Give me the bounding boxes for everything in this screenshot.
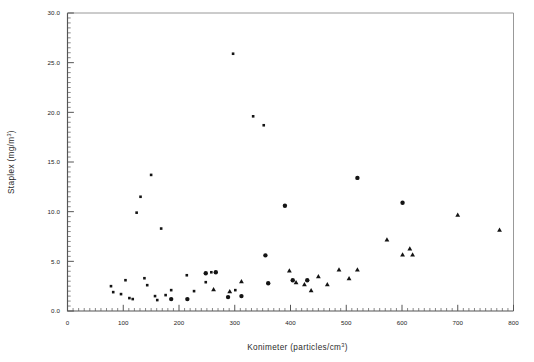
data-point-triangle	[302, 282, 307, 286]
data-point-square	[110, 285, 113, 288]
x-tick-label: 800	[508, 319, 519, 326]
y-axis-title-group: Staplex (mg/m3)	[6, 130, 16, 194]
data-point-circle	[266, 281, 270, 285]
x-axis-title: Konimeter (particles/cm3)	[247, 342, 348, 352]
data-point-circle	[291, 278, 295, 282]
data-point-circle	[263, 253, 267, 257]
data-point-square	[252, 115, 255, 118]
data-point-square	[120, 293, 123, 296]
data-point-square	[150, 174, 153, 177]
data-point-square	[156, 299, 159, 302]
data-point-triangle	[316, 274, 321, 278]
data-point-circle	[204, 271, 208, 275]
data-point-square	[262, 124, 265, 127]
data-point-circle	[169, 297, 173, 301]
x-tick-label: 700	[452, 319, 463, 326]
x-tick-label: 600	[397, 319, 408, 326]
data-point-circle	[214, 270, 218, 274]
y-tick-label: 30.0	[48, 9, 61, 16]
axis-spine-left-bottom	[68, 13, 514, 311]
data-point-square	[135, 211, 138, 214]
data-point-square	[186, 274, 189, 277]
data-point-triangle	[309, 288, 314, 292]
data-point-triangle	[497, 227, 502, 231]
series-triangle-markers	[211, 213, 502, 294]
data-point-triangle	[227, 289, 232, 293]
x-tick-label: 400	[285, 319, 296, 326]
x-tick-label: 100	[118, 319, 129, 326]
data-point-square	[160, 227, 163, 230]
data-point-square	[112, 291, 115, 294]
data-point-triangle	[407, 246, 412, 250]
y-tick-label: 5.0	[51, 258, 60, 265]
data-point-square	[204, 281, 207, 284]
y-axis-title: Staplex (mg/m3)	[6, 130, 16, 194]
data-point-square	[131, 298, 134, 301]
data-point-triangle	[410, 252, 415, 256]
data-point-circle	[400, 201, 404, 205]
data-point-square	[154, 295, 157, 298]
data-point-square	[232, 52, 235, 55]
series-circle-markers	[169, 176, 405, 302]
data-point-square	[193, 290, 196, 293]
data-point-circle	[239, 294, 243, 298]
x-tick-label: 300	[229, 319, 240, 326]
x-tick-label: 200	[174, 319, 185, 326]
data-point-triangle	[385, 237, 390, 241]
data-point-square	[170, 289, 173, 292]
data-point-triangle	[239, 279, 244, 283]
data-point-square	[143, 277, 146, 280]
data-point-square	[234, 289, 237, 292]
axis-spine-top-right	[68, 13, 514, 311]
data-point-circle	[305, 278, 309, 282]
data-point-triangle	[287, 268, 292, 272]
x-tick-label: 500	[341, 319, 352, 326]
data-point-triangle	[325, 282, 330, 286]
data-point-circle	[226, 295, 230, 299]
data-point-triangle	[337, 267, 342, 271]
data-point-triangle	[347, 276, 352, 280]
data-point-square	[146, 284, 149, 287]
x-tick-label: 0	[66, 319, 70, 326]
y-tick-label: 20.0	[48, 109, 61, 116]
data-point-circle	[185, 297, 189, 301]
y-tick-label: 15.0	[48, 158, 61, 165]
data-point-square	[139, 195, 142, 198]
series-small-square-markers	[110, 52, 265, 301]
data-point-square	[124, 279, 127, 282]
data-point-circle	[283, 204, 287, 208]
data-point-square	[210, 271, 213, 274]
data-point-square	[128, 297, 131, 300]
y-tick-label: 25.0	[48, 59, 61, 66]
data-point-triangle	[355, 267, 360, 271]
plot-canvas: 01002003004005006007008000.05.010.015.02…	[0, 0, 534, 362]
y-tick-label: 0.0	[51, 307, 60, 314]
scatter-plot-figure: 01002003004005006007008000.05.010.015.02…	[0, 0, 534, 362]
data-point-triangle	[211, 287, 216, 291]
data-point-circle	[355, 176, 359, 180]
y-tick-label: 10.0	[48, 208, 61, 215]
data-point-triangle	[455, 213, 460, 217]
data-point-square	[164, 294, 167, 297]
data-point-triangle	[400, 252, 405, 256]
